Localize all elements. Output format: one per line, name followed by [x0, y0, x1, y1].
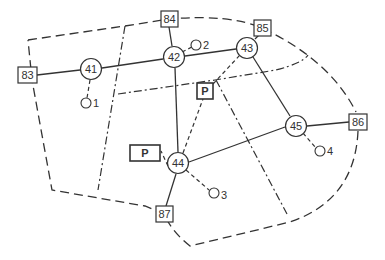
parking-icon[interactable]: P — [197, 83, 213, 99]
sub-node-3[interactable]: 3 — [209, 188, 227, 201]
intersection-41[interactable]: 41 — [81, 59, 102, 80]
svg-text:1: 1 — [93, 97, 99, 109]
svg-text:85: 85 — [256, 22, 268, 34]
sub-node-1[interactable]: 1 — [81, 97, 99, 109]
boundary-node-87[interactable]: 87 — [156, 206, 173, 222]
svg-text:83: 83 — [21, 69, 33, 81]
svg-text:43: 43 — [241, 42, 253, 54]
boundary-node-85[interactable]: 85 — [254, 20, 271, 36]
svg-text:2: 2 — [203, 39, 209, 51]
sub-node-2[interactable]: 2 — [191, 39, 209, 51]
boundary-node-86[interactable]: 86 — [349, 114, 367, 130]
svg-text:44: 44 — [172, 157, 184, 169]
sub-node-4[interactable]: 4 — [315, 145, 333, 157]
svg-text:P: P — [201, 85, 208, 97]
svg-text:41: 41 — [85, 63, 97, 75]
zone-divider — [98, 26, 125, 190]
intersection-44[interactable]: 44 — [168, 153, 189, 174]
boundary-node-84[interactable]: 84 — [161, 11, 178, 27]
intersection-42[interactable]: 42 — [164, 47, 185, 68]
network-diagram: 83 84 85 86 87 41 42 43 44 45 1 — [0, 0, 385, 260]
parking-icon[interactable]: P — [130, 145, 160, 161]
boundary-node-83[interactable]: 83 — [18, 67, 37, 83]
svg-text:4: 4 — [327, 145, 333, 157]
road-links — [37, 27, 349, 206]
svg-text:87: 87 — [158, 208, 170, 220]
svg-text:3: 3 — [221, 189, 227, 201]
svg-text:84: 84 — [163, 13, 175, 25]
intersection-43[interactable]: 43 — [237, 38, 258, 59]
svg-text:42: 42 — [168, 51, 180, 63]
svg-text:86: 86 — [352, 116, 364, 128]
zone-boundary — [28, 18, 358, 246]
svg-text:P: P — [141, 147, 148, 159]
svg-text:45: 45 — [290, 120, 302, 132]
diagram-svg: 83 84 85 86 87 41 42 43 44 45 1 — [0, 0, 385, 260]
intersection-45[interactable]: 45 — [286, 116, 307, 137]
